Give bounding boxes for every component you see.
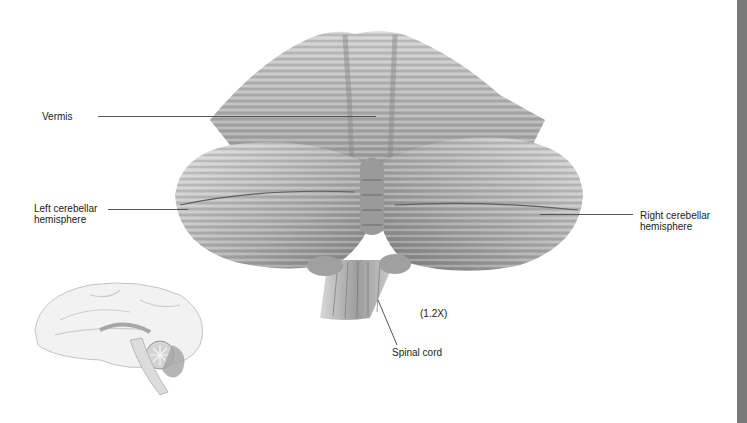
spinal-cord-leader-line <box>0 0 747 423</box>
spinal-cord-label: Spinal cord <box>392 347 442 358</box>
cerebellum-figure: Vermis Left cerebellar hemisphere Right … <box>0 0 747 423</box>
page-edge-bar <box>737 0 747 423</box>
